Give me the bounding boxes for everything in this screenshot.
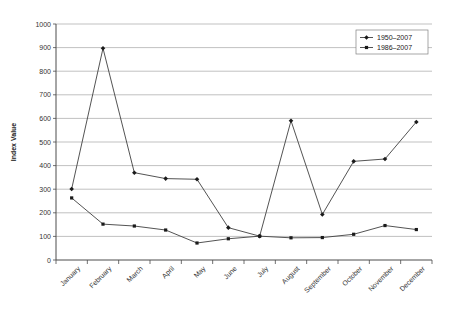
y-tick-label: 100 bbox=[39, 233, 51, 240]
y-tick-label: 200 bbox=[39, 209, 51, 216]
data-point-march bbox=[133, 224, 136, 227]
data-point-june bbox=[227, 237, 230, 240]
y-tick-label: 1000 bbox=[35, 21, 51, 28]
y-axis-title: Index Value bbox=[10, 123, 17, 162]
y-tick-label: 500 bbox=[39, 139, 51, 146]
y-tick-label: 600 bbox=[39, 115, 51, 122]
data-point-november bbox=[383, 224, 386, 227]
legend-marker-2 bbox=[365, 46, 368, 49]
data-point-september bbox=[321, 236, 324, 239]
legend-label-1: 1950–2007 bbox=[377, 34, 412, 41]
y-tick-label: 300 bbox=[39, 186, 51, 193]
y-tick-label: 400 bbox=[39, 162, 51, 169]
y-tick-label: 0 bbox=[47, 257, 51, 264]
data-point-may bbox=[195, 241, 198, 244]
data-point-january bbox=[70, 196, 73, 199]
data-point-december bbox=[415, 228, 418, 231]
chart-canvas: 01002003004005006007008009001000 January… bbox=[0, 0, 453, 313]
data-point-april bbox=[164, 228, 167, 231]
data-point-july bbox=[258, 235, 261, 238]
chart-legend: 1950–20071986–2007 bbox=[356, 30, 428, 54]
data-point-august bbox=[289, 236, 292, 239]
line-chart: 01002003004005006007008009001000 January… bbox=[0, 0, 453, 313]
y-tick-label: 800 bbox=[39, 68, 51, 75]
data-point-february bbox=[101, 223, 104, 226]
data-point-october bbox=[352, 233, 355, 236]
y-tick-label: 900 bbox=[39, 44, 51, 51]
legend-label-2: 1986–2007 bbox=[377, 44, 412, 51]
y-tick-label: 700 bbox=[39, 91, 51, 98]
